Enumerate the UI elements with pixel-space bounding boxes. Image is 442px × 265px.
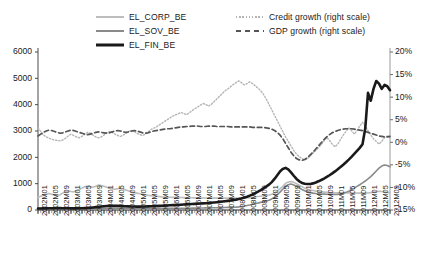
x-axis-tick-label: 2002M09: [63, 185, 70, 216]
x-axis-tick-label: 2010M05: [316, 185, 323, 216]
x-axis-tick-label: 2010M01: [305, 185, 312, 216]
plot-area: 0100020003000400050006000 -15%-10%-5%0%5…: [0, 0, 442, 265]
y-axis-right-tick-label: 5%: [395, 115, 429, 124]
x-axis-tick-label: 2003M05: [85, 185, 92, 216]
y-axis-right-tick-label: 20%: [395, 47, 429, 56]
x-axis-tick-label: 2012M05: [382, 185, 389, 216]
x-axis-tick-label: 2012M09: [393, 185, 400, 216]
y-axis-left-tick-label: 5000: [2, 74, 32, 83]
x-axis-tick-label: 2007M01: [206, 185, 213, 216]
x-axis-tick-label: 2006M05: [184, 185, 191, 216]
x-axis-tick-label: 2002M01: [41, 185, 48, 216]
x-axis-tick-label: 2009M09: [294, 185, 301, 216]
y-axis-right-tick-label: 10%: [395, 93, 429, 102]
x-axis-tick-label: 2008M09: [261, 185, 268, 216]
x-axis-tick-label: 2005M05: [151, 185, 158, 216]
x-axis-tick-label: 2004M09: [129, 185, 136, 216]
series-line-credit-growth-right-scale: [38, 81, 390, 160]
y-axis-left-tick-label: 6000: [2, 47, 32, 56]
y-axis-right-tick-label: -5%: [395, 160, 429, 169]
x-axis-tick-label: 2010M09: [327, 185, 334, 216]
x-axis-tick-label: 2008M05: [250, 185, 257, 216]
x-axis-tick-label: 2003M01: [74, 185, 81, 216]
x-axis-tick-label: 2006M09: [195, 185, 202, 216]
y-axis-left-tick-label: 1000: [2, 179, 32, 188]
chart-canvas: [0, 0, 442, 265]
x-axis-tick-label: 2006M01: [173, 185, 180, 216]
x-axis-tick-label: 2011M05: [349, 186, 356, 216]
y-axis-right-tick-label: 15%: [395, 70, 429, 79]
x-axis-tick-label: 2007M05: [217, 185, 224, 216]
x-axis-tick-label: 2004M05: [118, 185, 125, 216]
y-axis-left-tick-label: 4000: [2, 100, 32, 109]
x-axis-tick-label: 2005M09: [162, 185, 169, 216]
x-axis-tick-label: 2002M05: [52, 185, 59, 216]
x-axis-tick-label: 2003M09: [96, 185, 103, 216]
y-axis-left-tick-label: 0: [2, 205, 32, 214]
series-line-gdp-growth-right-scale: [38, 126, 390, 160]
y-axis-right-tick-label: 0%: [395, 138, 429, 147]
x-axis-tick-label: 2009M01: [272, 185, 279, 216]
x-axis-tick-label: 2011M09: [360, 186, 367, 216]
x-axis-tick-label: 2007M09: [228, 185, 235, 216]
x-axis-tick-label: 2011M01: [338, 186, 345, 216]
y-axis-left-tick-label: 3000: [2, 126, 32, 135]
x-axis-tick-label: 2008M01: [239, 185, 246, 216]
x-axis-tick-label: 2005M01: [140, 185, 147, 216]
x-axis-tick-label: 2012M01: [371, 185, 378, 216]
y-axis-left-tick-label: 2000: [2, 153, 32, 162]
x-axis-tick-label: 2004M01: [107, 185, 114, 216]
x-axis-tick-label: 2009M05: [283, 185, 290, 216]
chart-figure: EL_CORP_BE EL_SOV_BE EL_FIN_BE Credit gr…: [0, 0, 442, 265]
